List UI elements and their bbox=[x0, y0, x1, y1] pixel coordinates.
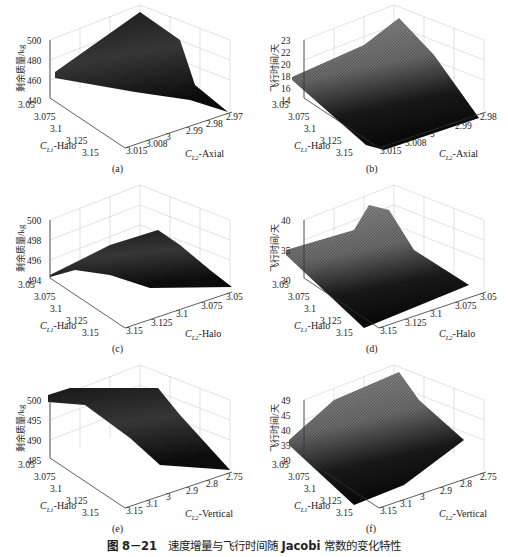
x2-tick-label: 3.15 bbox=[126, 326, 143, 336]
x2-tick-label: 3.008 bbox=[405, 138, 426, 148]
z-axis-label: 剩余质量/kg bbox=[14, 224, 27, 272]
z-tick-label: 500 bbox=[27, 396, 41, 406]
x1-tick-label: 3.15 bbox=[82, 508, 99, 518]
x2-tick-label: 3.125 bbox=[151, 318, 172, 328]
z-tick-label: 40 bbox=[281, 426, 291, 436]
x2-axis-label: CL2-Halo bbox=[439, 328, 475, 341]
x1-tick-label: 3.15 bbox=[336, 508, 353, 518]
z-axis-label: 飞行时间/天 bbox=[268, 44, 281, 92]
subplot-caption: (b) bbox=[366, 163, 378, 174]
x1-tick-label: 3.1 bbox=[50, 484, 62, 494]
x1-tick-label: 3.05 bbox=[18, 280, 35, 290]
x2-tick-label: 3.1 bbox=[146, 499, 158, 509]
x2-tick-label: 3.1 bbox=[176, 309, 188, 319]
x2-tick-label: 2.97 bbox=[226, 112, 243, 122]
z-axis-label: 飞行时间/天 bbox=[268, 224, 281, 272]
x2-tick-label: 3 bbox=[166, 492, 171, 502]
x2-axis-label: CL2-Axial bbox=[185, 148, 224, 161]
x1-tick-label: 3.05 bbox=[272, 280, 289, 290]
x1-tick-label: 3.15 bbox=[82, 148, 99, 158]
x2-tick-label: 3.008 bbox=[146, 139, 167, 149]
x2-tick-label: 3.075 bbox=[201, 301, 222, 311]
figure-title-prefix: 速度增量与飞行时间随 bbox=[168, 539, 278, 553]
x1-axis-label: CL1-Halo bbox=[294, 500, 330, 513]
x2-axis-label: CL2-Axial bbox=[439, 148, 478, 161]
x2-tick-label: 2.98 bbox=[206, 119, 223, 129]
x1-tick-label: 3.075 bbox=[288, 112, 309, 122]
z-tick-label: 40 bbox=[281, 216, 291, 226]
x1-axis-label: CL1-Halo bbox=[40, 140, 76, 153]
x1-tick-label: 3.1 bbox=[304, 124, 316, 134]
x2-tick-label: 2.9 bbox=[186, 486, 198, 496]
z-tick-label: 500 bbox=[27, 36, 41, 46]
x1-tick-label: 3.1 bbox=[50, 304, 62, 314]
x2-tick-label: 3.1 bbox=[430, 309, 442, 319]
x2-tick-label: 3.15 bbox=[380, 506, 397, 516]
x2-tick-label: 2.8 bbox=[460, 479, 472, 489]
subplot-d: 飞行时间/天 403530 3.053.0753.13.1253.15 3.15… bbox=[254, 180, 508, 360]
x2-tick-label: 3.15 bbox=[380, 326, 397, 336]
x1-tick-label: 3.15 bbox=[336, 328, 353, 338]
x1-tick-label: 3.15 bbox=[336, 148, 353, 158]
z-tick-label: 18 bbox=[281, 72, 291, 82]
subplot-caption: (f) bbox=[366, 523, 376, 534]
z-tick-label: 35 bbox=[281, 441, 291, 451]
x1-tick-label: 3.05 bbox=[272, 100, 289, 110]
subplot-caption: (e) bbox=[112, 523, 123, 534]
x2-axis-label: CL2-Vertical bbox=[439, 508, 487, 521]
subplot-caption: (c) bbox=[112, 343, 123, 354]
z-tick-label: 500 bbox=[27, 216, 41, 226]
x2-tick-label: 2.75 bbox=[480, 472, 497, 482]
x1-tick-label: 3.1 bbox=[50, 124, 62, 134]
z-tick-label: 495 bbox=[27, 416, 41, 426]
x1-axis-label: CL1-Halo bbox=[40, 500, 76, 513]
x2-tick-label: 3 bbox=[430, 129, 435, 139]
x2-tick-label: 2.99 bbox=[186, 126, 203, 136]
x2-tick-label: 2.9 bbox=[440, 486, 452, 496]
x2-axis-label: CL2-Vertical bbox=[185, 508, 233, 521]
x1-tick-label: 3.05 bbox=[272, 460, 289, 470]
z-tick-label: 460 bbox=[27, 76, 41, 86]
x2-tick-label: 3.075 bbox=[455, 301, 476, 311]
x1-axis-label: CL1-Halo bbox=[294, 320, 330, 333]
x2-tick-label: 2.99 bbox=[455, 121, 472, 131]
subplot-b: 飞行时间/天 232220181614 3.053.0753.13.1253.1… bbox=[254, 0, 508, 180]
x2-tick-label: 3.015 bbox=[126, 146, 147, 156]
x1-axis-label: CL1-Halo bbox=[294, 140, 330, 153]
x2-axis-label: CL2-Halo bbox=[185, 328, 221, 341]
x2-tick-label: 3.05 bbox=[480, 292, 497, 302]
x2-tick-label: 2.98 bbox=[480, 112, 497, 122]
subplot-a: 剩余质量/kg 500480460440 3.053.0753.13.1253.… bbox=[0, 0, 254, 180]
z-axis-label: 剩余质量/kg bbox=[14, 404, 27, 452]
x2-tick-label: 2.75 bbox=[226, 472, 243, 482]
x1-tick-label: 3.075 bbox=[34, 472, 55, 482]
z-axis-label: 剩余质量/kg bbox=[14, 44, 27, 92]
x1-tick-label: 3.15 bbox=[82, 328, 99, 338]
x2-tick-label: 3 bbox=[420, 492, 425, 502]
x2-tick-label: 2.8 bbox=[206, 479, 218, 489]
z-tick-label: 480 bbox=[27, 56, 41, 66]
figure-title-suffix: 常数的变化特性 bbox=[324, 539, 401, 553]
subplot-c: 剩余质量/kg 500498496494 3.053.0753.13.1253.… bbox=[0, 180, 254, 360]
x2-tick-label: 3.125 bbox=[405, 318, 426, 328]
x2-tick-label: 3 bbox=[166, 132, 171, 142]
x1-axis-label: CL1-Halo bbox=[40, 320, 76, 333]
z-tick-label: 35 bbox=[281, 246, 291, 256]
x1-tick-label: 3.075 bbox=[34, 112, 55, 122]
x1-tick-label: 3.05 bbox=[18, 100, 35, 110]
z-tick-label: 45 bbox=[281, 411, 291, 421]
subplot-caption: (a) bbox=[112, 163, 123, 174]
x1-tick-label: 3.1 bbox=[304, 484, 316, 494]
figure-title-bold: Jacobi bbox=[282, 539, 321, 553]
z-tick-label: 490 bbox=[27, 436, 41, 446]
x1-tick-label: 3.1 bbox=[304, 304, 316, 314]
x1-tick-label: 3.05 bbox=[18, 460, 35, 470]
x2-tick-label: 3.05 bbox=[226, 292, 243, 302]
z-tick-label: 23 bbox=[281, 36, 291, 46]
subplot-f: 飞行时间/天 4945403530 3.053.0753.13.1253.15 … bbox=[254, 360, 508, 540]
x2-tick-label: 3.15 bbox=[126, 506, 143, 516]
z-tick-label: 16 bbox=[281, 84, 291, 94]
z-tick-label: 20 bbox=[281, 60, 291, 70]
x1-tick-label: 3.075 bbox=[34, 292, 55, 302]
figure-number: 图 8－21 bbox=[107, 539, 157, 553]
